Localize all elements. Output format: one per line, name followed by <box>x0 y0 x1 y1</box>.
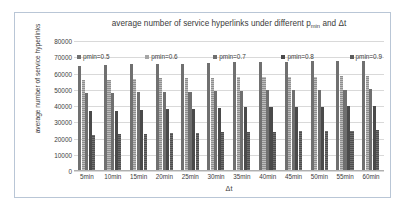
x-axis-line <box>74 170 384 171</box>
bar-group <box>74 41 100 171</box>
x-tick-label: 45min <box>281 173 307 180</box>
x-tick-label: 35min <box>229 173 255 180</box>
bar-groups <box>74 41 384 171</box>
bar <box>325 131 328 171</box>
bar <box>299 131 302 171</box>
bar-group <box>126 41 152 171</box>
bar <box>92 135 95 171</box>
bar-group <box>306 41 332 171</box>
chart-title-main: average number of service hyperlinks und… <box>112 19 311 28</box>
x-tick-label: 50min <box>306 173 332 180</box>
bar-group <box>255 41 281 171</box>
legend-label: pmin=0.9 <box>356 53 382 60</box>
chart-title: average number of service hyperlinks und… <box>71 19 387 28</box>
legend-item[interactable]: pmin=0.8 <box>281 53 313 60</box>
bar-group <box>177 41 203 171</box>
bar-group <box>203 41 229 171</box>
y-tick-label: 60000 <box>41 70 72 77</box>
legend-swatch-icon <box>145 55 149 59</box>
legend-item[interactable]: pmin=0.5 <box>77 53 109 60</box>
chart-title-subscript: min <box>311 23 320 29</box>
chart-legend: pmin=0.5pmin=0.6pmin=0.7pmin=0.8pmin=0.9 <box>77 53 382 60</box>
plot-area <box>74 41 384 171</box>
bar-group <box>229 41 255 171</box>
y-tick-label: 0 <box>41 168 72 175</box>
legend-label: pmin=0.8 <box>287 53 313 60</box>
bar <box>221 132 224 171</box>
x-tick-label: 30min <box>203 173 229 180</box>
chart-frame: average number of service hyperlinks und… <box>14 12 391 198</box>
legend-swatch-icon <box>213 55 217 59</box>
bar <box>273 132 276 171</box>
y-tick-label: 30000 <box>41 119 72 126</box>
y-axis-ticks: 8000070000600005000040000300002000010000… <box>41 41 72 171</box>
bar-group <box>281 41 307 171</box>
y-tick-label: 50000 <box>41 86 72 93</box>
legend-label: pmin=0.7 <box>219 53 245 60</box>
bar <box>376 130 379 171</box>
bar <box>247 132 250 171</box>
bar <box>170 133 173 171</box>
chart-screenshot: average number of service hyperlinks und… <box>0 0 405 211</box>
legend-label: pmin=0.6 <box>151 53 177 60</box>
chart-title-tail: and Δt <box>320 19 346 28</box>
legend-swatch-icon <box>281 55 285 59</box>
bar <box>350 131 353 171</box>
legend-swatch-icon <box>350 55 354 59</box>
y-tick-label: 40000 <box>41 103 72 110</box>
x-tick-label: 60min <box>358 173 384 180</box>
legend-swatch-icon <box>77 55 81 59</box>
x-axis-title: Δt <box>74 184 384 193</box>
x-tick-label: 15min <box>126 173 152 180</box>
x-tick-label: 20min <box>151 173 177 180</box>
y-tick-label: 80000 <box>41 38 72 45</box>
bar <box>196 133 199 171</box>
bar-group <box>100 41 126 171</box>
bar-group <box>332 41 358 171</box>
bar <box>144 134 147 171</box>
y-tick-label: 10000 <box>41 151 72 158</box>
bar <box>118 134 121 171</box>
y-axis-title: average number of service hyperlinks <box>34 17 41 141</box>
legend-item[interactable]: pmin=0.7 <box>213 53 245 60</box>
x-tick-label: 10min <box>100 173 126 180</box>
x-tick-label: 5min <box>74 173 100 180</box>
x-tick-label: 55min <box>332 173 358 180</box>
legend-item[interactable]: pmin=0.9 <box>350 53 382 60</box>
legend-item[interactable]: pmin=0.6 <box>145 53 177 60</box>
bar-group <box>151 41 177 171</box>
x-tick-label: 25min <box>177 173 203 180</box>
gridline <box>74 171 384 172</box>
y-tick-label: 70000 <box>41 54 72 61</box>
legend-label: pmin=0.5 <box>83 53 109 60</box>
x-axis-ticks: 5min10min15min20min25min30min35min40min4… <box>74 173 384 180</box>
bar-group <box>358 41 384 171</box>
x-tick-label: 40min <box>255 173 281 180</box>
y-tick-label: 20000 <box>41 135 72 142</box>
